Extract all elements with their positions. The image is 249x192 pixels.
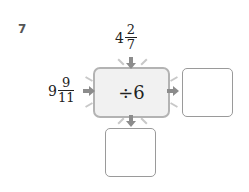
left-denominator: 11: [58, 91, 75, 105]
arrow-right-icon: [167, 86, 179, 96]
top-input-mixed-number: 4 2 7: [115, 23, 137, 52]
ray-decoration: [170, 102, 178, 108]
top-numerator: 2: [127, 23, 135, 37]
arrow-right-icon: [83, 86, 95, 96]
ray-decoration: [170, 76, 178, 82]
ray-decoration: [117, 117, 124, 124]
ray-decoration: [140, 58, 147, 65]
arrow-down-icon: [126, 57, 136, 69]
arrow-down-icon: [126, 115, 136, 127]
operation-box: ÷6: [93, 67, 170, 118]
answer-box-bottom[interactable]: [105, 128, 156, 177]
ray-decoration: [85, 102, 93, 108]
left-numerator: 9: [62, 76, 70, 90]
left-input-mixed-number: 9 9 11: [48, 76, 74, 105]
left-whole: 9: [48, 83, 57, 99]
problem-number: 7: [18, 22, 26, 36]
top-denominator: 7: [127, 38, 135, 52]
top-whole: 4: [115, 30, 124, 46]
answer-box-right[interactable]: [182, 68, 233, 117]
left-fraction: 9 11: [58, 76, 75, 105]
ray-decoration: [117, 58, 124, 65]
top-fraction: 2 7: [125, 23, 137, 52]
ray-decoration: [85, 76, 93, 82]
ray-decoration: [140, 117, 147, 124]
